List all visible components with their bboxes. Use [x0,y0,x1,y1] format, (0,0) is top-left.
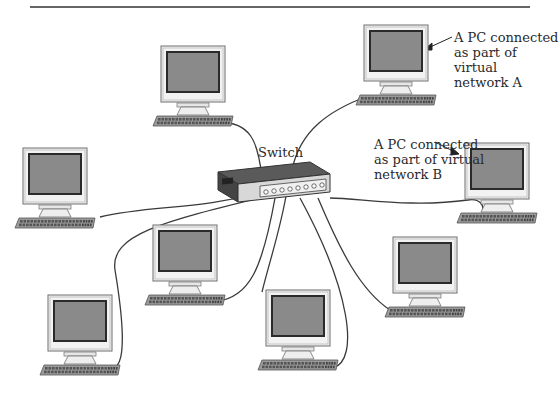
annotation-network-b: A PC connected as part of virtual networ… [374,137,484,182]
switch-display [222,177,233,184]
monitor-base [177,103,209,107]
monitor-stand [282,351,314,359]
monitor-base [64,352,96,356]
monitor-screen [29,154,81,194]
pc-bottom-left[interactable] [40,295,120,375]
pc-bottom-center[interactable] [258,290,338,370]
monitor-base [481,200,513,204]
switch-port [272,189,276,193]
annotation-network-a: A PC connected as part of virtual networ… [454,30,560,90]
monitor-screen [272,296,324,336]
monitor-base [169,282,201,286]
monitor-stand [64,356,96,364]
keyboard [153,116,233,126]
keyboard [15,218,95,228]
monitor-stand [169,286,201,294]
switch-port [312,184,316,188]
monitor-screen [399,243,451,283]
switch-label: Switch [258,145,303,160]
switch-port [280,188,284,192]
monitor-stand [409,298,441,306]
monitor-base [282,347,314,351]
pc-top-left[interactable] [153,46,233,126]
switch-port [304,185,308,189]
pc-mid-left[interactable] [15,148,95,228]
switch-port [288,187,292,191]
keyboard [40,365,120,375]
cable-extra [262,196,286,292]
keyboard [145,295,225,305]
monitor-base [380,82,412,86]
monitor-screen [370,31,422,71]
pc-top-right[interactable] [356,25,436,105]
monitor-stand [177,107,209,115]
switch-port [320,183,324,187]
monitor-base [409,294,441,298]
monitor-screen [54,301,106,341]
keyboard [258,360,338,370]
monitor-screen [167,52,219,92]
cable-top-right [292,96,368,170]
monitor-base [39,205,71,209]
pc-bottom-right[interactable] [385,237,465,317]
cable-mid-right [330,198,483,212]
network-switch[interactable] [218,162,330,202]
monitor-stand [380,86,412,94]
switch-port [296,186,300,190]
monitor-stand [39,209,71,217]
cable-center-left [216,198,275,302]
switch-port [264,190,268,194]
monitor-screen [159,231,211,271]
pc-center-left[interactable] [145,225,225,305]
network-diagram: Switch A PC connected as part of virtual… [0,0,560,406]
keyboard [356,95,436,105]
keyboard [385,307,465,317]
keyboard [457,213,537,223]
monitor-stand [481,204,513,212]
